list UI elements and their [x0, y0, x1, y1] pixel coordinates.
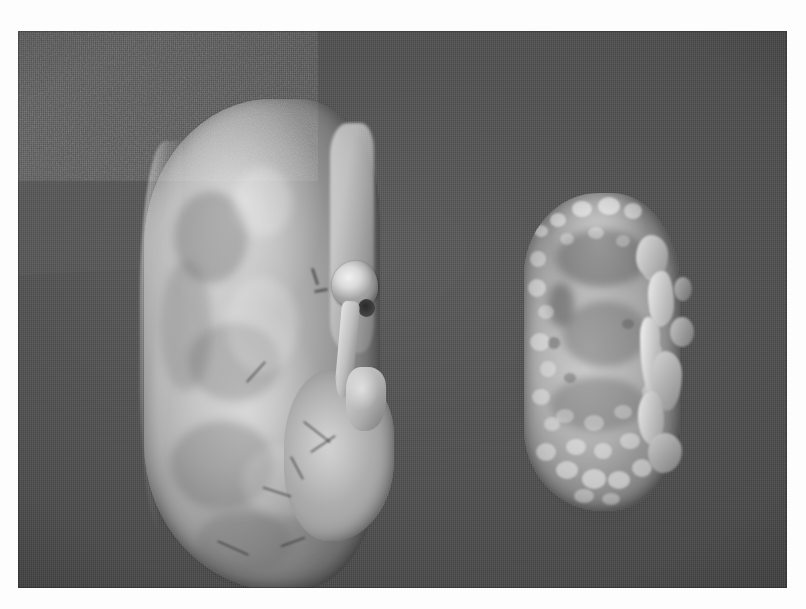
capsular-shred [674, 277, 692, 301]
surface-granule [556, 409, 574, 423]
surface-granule [624, 203, 642, 219]
cortical-mottle [226, 277, 298, 373]
surface-granule [572, 201, 592, 217]
cortical-mottle [196, 511, 292, 575]
specimen-left-kidney [130, 71, 395, 588]
capsular-shred [648, 433, 682, 473]
surface-granule [538, 305, 554, 319]
specimen-right-hilum [630, 231, 702, 481]
surface-granule [574, 489, 594, 503]
surface-granule [582, 469, 606, 489]
hilar-mark [314, 288, 328, 293]
specimen-left-hilum [312, 123, 386, 423]
capsular-shred [670, 317, 694, 347]
cortical-mottle [234, 167, 292, 237]
surface-granule [598, 197, 620, 215]
surface-granule [560, 233, 574, 245]
surface-granule [528, 279, 546, 297]
surface-granule [530, 251, 546, 267]
gross-pathology-photograph [18, 31, 787, 588]
specimen-right-kidney [504, 171, 714, 531]
surface-granule [594, 443, 612, 459]
surface-granule [588, 227, 604, 239]
surface-granule [616, 235, 630, 247]
hilar-mark [311, 267, 319, 285]
page-root [0, 0, 806, 609]
surface-granule [602, 493, 620, 505]
surface-granule [556, 461, 578, 479]
surface-granule [530, 333, 550, 351]
surface-granule [608, 471, 630, 489]
renal-vessel-lumen [358, 299, 375, 317]
surface-granule [540, 361, 556, 377]
surface-granule [584, 415, 604, 431]
surface-granule [564, 373, 576, 383]
surface-granule [532, 389, 550, 405]
photo-caption [0, 0, 1, 1]
surface-granule [566, 439, 586, 455]
surface-granule [550, 213, 566, 227]
surface-granule [548, 337, 560, 349]
surface-granule [536, 443, 556, 461]
cortical-mottle [160, 261, 212, 391]
hilar-tissue-tag [346, 367, 386, 431]
surface-granule [534, 225, 548, 237]
